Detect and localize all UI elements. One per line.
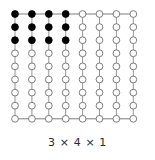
lattice-node-filled <box>45 37 52 44</box>
lattice-node-empty <box>113 37 120 44</box>
lattice-node-empty <box>113 24 120 31</box>
lattice-node-empty <box>130 11 137 18</box>
lattice-node-empty <box>12 115 19 122</box>
lattice-node-filled <box>45 24 52 31</box>
lattice-node-empty <box>62 50 69 57</box>
lattice-node-empty <box>79 76 86 83</box>
lattice-node-empty <box>96 102 103 109</box>
lattice-node-empty <box>130 115 137 122</box>
lattice-node-empty <box>113 11 120 18</box>
lattice-node-empty <box>62 102 69 109</box>
lattice-node-empty <box>12 63 19 70</box>
lattice-node-filled <box>12 24 19 31</box>
lattice-node-empty <box>12 102 19 109</box>
lattice-node-empty <box>113 63 120 70</box>
lattice-node-empty <box>130 50 137 57</box>
lattice-node-empty <box>29 102 36 109</box>
lattice-node-empty <box>29 89 36 96</box>
lattice-node-empty <box>12 50 19 57</box>
lattice-node-filled <box>29 11 36 18</box>
figure-caption: 3 × 4 × 1 <box>0 136 155 149</box>
lattice-node-empty <box>79 102 86 109</box>
lattice-node-empty <box>96 11 103 18</box>
lattice-node-empty <box>96 50 103 57</box>
lattice-node-empty <box>113 50 120 57</box>
lattice-node-empty <box>29 50 36 57</box>
lattice-node-empty <box>130 102 137 109</box>
lattice-node-empty <box>45 76 52 83</box>
lattice-nodes <box>12 11 137 123</box>
lattice-node-empty <box>96 63 103 70</box>
lattice-node-empty <box>29 63 36 70</box>
lattice-node-empty <box>45 50 52 57</box>
lattice-node-empty <box>113 115 120 122</box>
lattice-node-empty <box>96 115 103 122</box>
lattice-node-empty <box>96 76 103 83</box>
lattice-node-empty <box>62 76 69 83</box>
lattice-diagram <box>0 0 155 132</box>
lattice-node-empty <box>130 63 137 70</box>
lattice-node-empty <box>79 63 86 70</box>
lattice-node-empty <box>113 102 120 109</box>
lattice-node-empty <box>130 89 137 96</box>
lattice-node-filled <box>45 11 52 18</box>
lattice-node-filled <box>29 24 36 31</box>
lattice-node-empty <box>130 24 137 31</box>
lattice-node-empty <box>62 115 69 122</box>
lattice-node-filled <box>12 11 19 18</box>
lattice-node-empty <box>62 89 69 96</box>
lattice-node-empty <box>96 89 103 96</box>
lattice-node-empty <box>79 50 86 57</box>
lattice-node-empty <box>29 115 36 122</box>
lattice-node-empty <box>113 76 120 83</box>
lattice-node-filled <box>29 37 36 44</box>
lattice-node-empty <box>62 63 69 70</box>
lattice-node-empty <box>29 76 36 83</box>
lattice-node-empty <box>45 102 52 109</box>
lattice-svg <box>0 0 155 132</box>
lattice-node-empty <box>12 89 19 96</box>
lattice-node-filled <box>62 37 69 44</box>
lattice-node-empty <box>45 115 52 122</box>
lattice-node-empty <box>79 24 86 31</box>
lattice-node-empty <box>79 11 86 18</box>
lattice-node-empty <box>96 37 103 44</box>
lattice-node-empty <box>130 37 137 44</box>
lattice-node-empty <box>45 89 52 96</box>
lattice-node-empty <box>12 76 19 83</box>
lattice-node-empty <box>113 89 120 96</box>
lattice-node-empty <box>130 76 137 83</box>
lattice-node-empty <box>79 89 86 96</box>
lattice-node-empty <box>96 24 103 31</box>
lattice-node-empty <box>45 63 52 70</box>
lattice-node-empty <box>79 115 86 122</box>
lattice-figure: 3 × 4 × 1 <box>0 0 155 160</box>
lattice-node-filled <box>12 37 19 44</box>
lattice-node-filled <box>62 24 69 31</box>
lattice-node-filled <box>62 11 69 18</box>
lattice-node-empty <box>79 37 86 44</box>
